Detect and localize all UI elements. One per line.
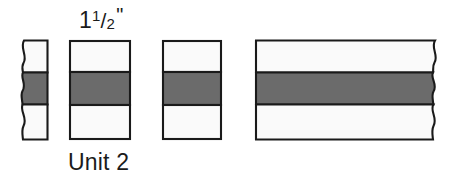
bar-4-group bbox=[256, 41, 436, 140]
bar-1-group bbox=[21, 41, 47, 140]
bar-1-bottom-white-segment bbox=[22, 105, 48, 140]
bottom-unit-label: Unit 2 bbox=[68, 148, 129, 176]
measure-fraction: 1/2 bbox=[92, 3, 115, 37]
bar-1-top-white-segment bbox=[22, 41, 47, 73]
bar-3-group bbox=[163, 41, 221, 139]
bar-2-bottom-white-segment bbox=[70, 105, 130, 139]
bar-2-top-white-segment bbox=[70, 41, 130, 72]
measure-whole-number: 1 bbox=[79, 7, 92, 33]
fraction-denominator: 2 bbox=[107, 15, 116, 32]
fraction-numerator: 1 bbox=[92, 7, 101, 24]
bar-2-gray-band bbox=[70, 72, 130, 105]
fraction-strips-figure: 11/2" Unit 2 bbox=[0, 0, 454, 185]
bar-3-bottom-white-segment bbox=[163, 105, 221, 139]
inch-mark-symbol: " bbox=[116, 4, 123, 26]
bar-3-gray-band bbox=[163, 72, 221, 105]
bar-1-gray-band bbox=[21, 73, 47, 105]
bar-4-top-white-segment bbox=[256, 41, 436, 73]
bar-2-group bbox=[70, 41, 130, 139]
bar-4-bottom-white-segment bbox=[256, 105, 435, 140]
top-measure-label: 11/2" bbox=[79, 2, 123, 37]
bar-4-gray-band bbox=[256, 73, 435, 105]
bar-3-top-white-segment bbox=[163, 41, 221, 72]
